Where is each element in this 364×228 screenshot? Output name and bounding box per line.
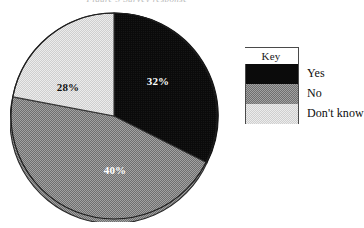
legend-swatch-yes[interactable] <box>246 64 298 84</box>
pie-chart: 32% 40% 28% <box>10 11 220 222</box>
legend-title: Key <box>245 48 297 64</box>
pie-label-no: 40% <box>104 164 127 176</box>
legend-label-dont-know: Don't know <box>307 103 364 123</box>
chart-legend: Key Yes No Don't know <box>245 47 348 125</box>
pie-label-dont-know: 28% <box>57 81 80 93</box>
legend-label-no: No <box>307 83 322 103</box>
pie-label-yes: 32% <box>147 75 170 87</box>
pie-chart-svg: 32% 40% 28% <box>10 11 220 222</box>
legend-label-yes: Yes <box>307 63 325 83</box>
legend-swatch-dont-know[interactable] <box>246 104 298 124</box>
figure-title-remnant: Figure 3 Survey response <box>62 0 212 2</box>
legend-swatch-no[interactable] <box>246 84 298 104</box>
